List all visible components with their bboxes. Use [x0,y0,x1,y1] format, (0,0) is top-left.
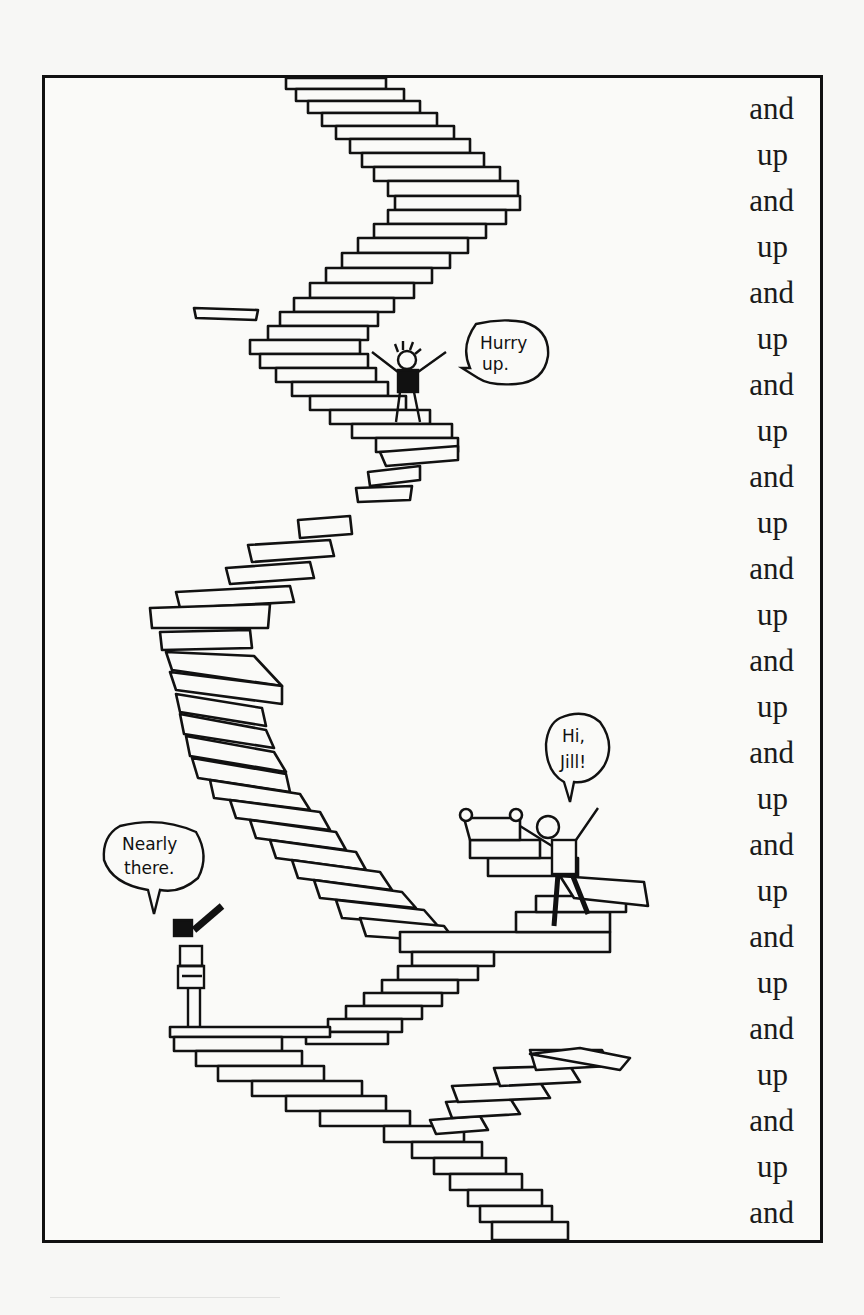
hurry-text: Hurry [480,333,527,353]
lower-flight [306,952,494,1044]
speech-bubble-nearly-there: Nearly there. [104,822,204,914]
upper-flight [194,78,520,452]
telescope-kid-figure [174,906,222,1026]
speech-bubble-hurry-up: Hurry up. [462,320,548,384]
up-text: up. [482,354,509,374]
staircase-drawing: Hurry up. Hi, Jill! Nearly there. [0,0,864,1315]
jill-text: Jill! [559,752,586,772]
page-rule [50,1297,280,1298]
right-rising-flight [430,1048,630,1134]
there-text: there. [124,858,174,878]
bottom-landing [170,1027,568,1240]
nearly-text: Nearly [122,834,177,854]
speech-bubble-hi-jill: Hi, Jill! [546,714,609,802]
hi-text: Hi, [562,726,585,746]
